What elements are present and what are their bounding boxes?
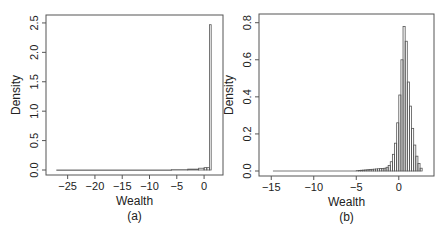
panel-label: (a)	[127, 209, 142, 223]
y-tick-label: 0.8	[241, 15, 253, 30]
x-tick-label: 0	[201, 180, 207, 192]
x-tick-label: −5	[350, 181, 363, 193]
histogram-bar	[207, 168, 210, 170]
panel-a: −25−20−15−10−500.00.51.01.52.02.5WealthD…	[9, 15, 223, 223]
x-tick-label: −10	[304, 181, 323, 193]
y-tick-label: 2.5	[28, 15, 40, 30]
y-axis-label: Density	[222, 75, 236, 115]
x-tick-label: −10	[140, 180, 159, 192]
x-tick-label: 0	[396, 181, 402, 193]
y-tick-label: 0.2	[241, 126, 253, 141]
histogram-bar	[210, 25, 212, 170]
y-tick-label: 2.0	[28, 45, 40, 60]
y-tick-label: 0.0	[241, 163, 253, 178]
x-tick-label: −20	[86, 180, 105, 192]
histogram-bar	[199, 168, 204, 170]
y-tick-label: 0.4	[241, 89, 253, 104]
figure: −25−20−15−10−500.00.51.01.52.02.5WealthD…	[0, 0, 447, 230]
histogram-bar	[188, 169, 199, 170]
x-tick-label: −15	[113, 180, 132, 192]
panel-label: (b)	[339, 210, 354, 224]
x-axis-label: Wealth	[328, 195, 365, 209]
x-tick-label: −15	[262, 181, 281, 193]
histogram-bars	[273, 26, 422, 171]
x-tick-label: −5	[171, 180, 184, 192]
histogram-bar	[204, 168, 207, 170]
y-tick-label: 0.0	[28, 162, 40, 177]
panel-b: −15−10−500.00.20.40.60.8WealthDensity(b)	[222, 14, 434, 224]
plot-frame	[46, 15, 223, 175]
y-tick-label: 0.5	[28, 133, 40, 148]
y-tick-label: 1.5	[28, 74, 40, 89]
x-axis-label: Wealth	[116, 194, 153, 208]
y-tick-label: 0.6	[241, 52, 253, 67]
y-axis-label: Density	[9, 75, 23, 115]
y-tick-label: 1.0	[28, 104, 40, 119]
histogram-bars	[57, 25, 211, 171]
histogram-bar	[420, 168, 422, 171]
x-tick-label: −25	[58, 180, 77, 192]
plot-frame	[259, 14, 434, 176]
